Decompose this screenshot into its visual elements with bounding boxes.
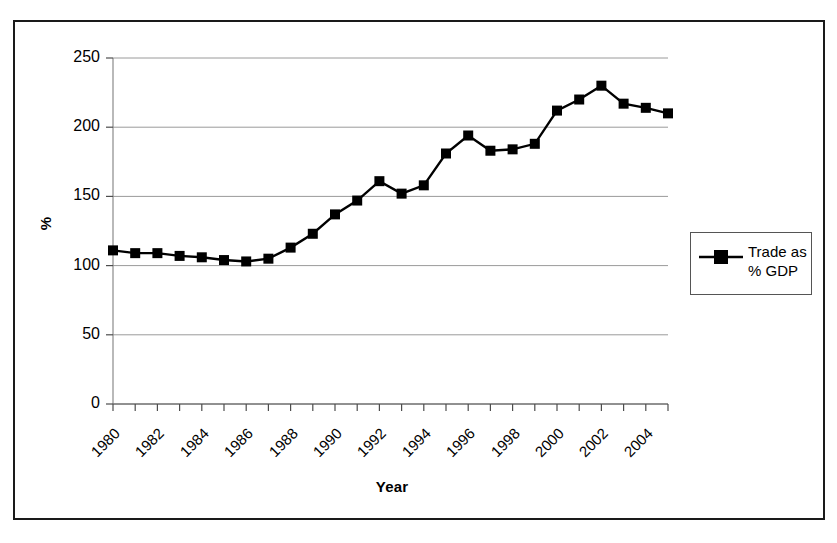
data-point-marker (130, 248, 140, 258)
data-point-marker (419, 180, 429, 190)
data-point-marker (308, 229, 318, 239)
data-point-marker (397, 189, 407, 199)
data-point-marker (530, 139, 540, 149)
data-point-marker (152, 248, 162, 258)
data-point-marker (552, 106, 562, 116)
data-point-marker (175, 251, 185, 261)
y-axis-ticks (106, 58, 113, 404)
legend-label: Trade as % GDP (748, 242, 810, 280)
y-tick-label: 250 (54, 48, 100, 66)
data-point-marker (241, 256, 251, 266)
data-point-marker (263, 254, 273, 264)
data-point-marker (108, 245, 118, 255)
gridlines (113, 58, 668, 404)
data-point-marker (197, 252, 207, 262)
data-point-marker (619, 99, 629, 109)
data-point-marker (596, 81, 606, 91)
data-series-line (113, 86, 668, 262)
data-point-marker (219, 255, 229, 265)
x-axis-ticks (113, 404, 668, 411)
data-point-marker (286, 243, 296, 253)
y-tick-label: 150 (54, 186, 100, 204)
x-axis-title: Year (332, 478, 452, 495)
data-point-marker (508, 144, 518, 154)
legend-label-line1: Trade as (748, 242, 810, 261)
data-point-marker (485, 146, 495, 156)
legend-label-line2: % GDP (748, 261, 810, 280)
data-point-marker (352, 196, 362, 206)
data-point-marker (641, 103, 651, 113)
chart-figure: % Year 050100150200250 19801982198419861… (0, 0, 837, 543)
data-point-marker (330, 209, 340, 219)
y-tick-label: 50 (54, 325, 100, 343)
y-axis-title: % (37, 217, 54, 231)
data-point-marker (663, 108, 673, 118)
data-point-marker (463, 131, 473, 141)
data-point-marker (374, 176, 384, 186)
y-tick-label: 0 (54, 394, 100, 412)
data-point-marker (441, 148, 451, 158)
y-tick-label: 100 (54, 256, 100, 274)
legend-marker-icon (699, 250, 743, 264)
data-series-markers (108, 81, 673, 267)
chart-legend: Trade as % GDP (690, 232, 812, 295)
data-point-marker (574, 95, 584, 105)
y-tick-label: 200 (54, 117, 100, 135)
